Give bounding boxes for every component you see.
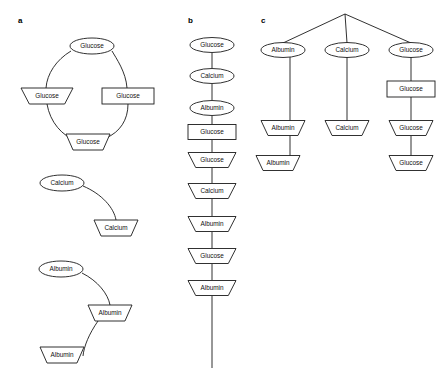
node-a3-glucose[interactable]: Glucose — [102, 88, 154, 104]
node-label: Glucose — [399, 124, 423, 131]
node-a2-glucose[interactable]: Glucose — [21, 88, 73, 104]
node-t9-glucose[interactable]: Glucose — [389, 156, 433, 171]
node-label: Albumin — [271, 124, 295, 131]
node-c3-albumin[interactable]: Albumin — [40, 347, 84, 363]
node-v8-glucose[interactable]: Glucose — [188, 249, 236, 264]
node-label: Albumin — [50, 351, 74, 358]
diagram-canvas: aGlucoseGlucoseGlucoseGlucoseCalciumCalc… — [0, 0, 446, 382]
node-label: Albumin — [200, 220, 224, 227]
node-v6-calcium[interactable]: Calcium — [188, 184, 236, 199]
panel-label-b: b — [188, 16, 193, 25]
node-b1-calcium[interactable]: Calcium — [40, 175, 84, 191]
node-t7-glucose[interactable]: Glucose — [389, 121, 433, 136]
node-label: Glucose — [399, 159, 423, 166]
node-t8-albumin[interactable]: Albumin — [256, 156, 300, 171]
node-t3-glucose[interactable]: Glucose — [389, 43, 433, 58]
node-v3-albumin[interactable]: Albumin — [190, 101, 234, 116]
panel-label-c: c — [261, 16, 266, 25]
node-label: Glucose — [200, 128, 224, 135]
node-label: Glucose — [200, 156, 224, 163]
node-label: Calcium — [335, 124, 358, 131]
node-label: Albumin — [271, 46, 295, 53]
node-label: Glucose — [200, 41, 224, 48]
node-b2-calcium[interactable]: Calcium — [94, 220, 138, 236]
node-label: Albumin — [49, 265, 73, 272]
node-label: Albumin — [266, 159, 290, 166]
group-albumin-chain: AlbuminAlbuminAlbumin — [39, 261, 132, 363]
node-label: Calcium — [200, 72, 223, 79]
node-v7-albumin[interactable]: Albumin — [188, 217, 236, 232]
node-v4-glucose[interactable]: Glucose — [188, 125, 236, 140]
group-vertical-chain: GlucoseCalciumAlbuminGlucoseGlucoseCalci… — [188, 38, 236, 369]
node-t1-albumin[interactable]: Albumin — [261, 43, 305, 58]
node-label: Albumin — [200, 104, 224, 111]
edge-c1-to-c2 — [82, 273, 110, 305]
node-label: Calcium — [335, 46, 358, 53]
edge-root-to-t2 — [345, 14, 347, 43]
node-label: Glucose — [76, 138, 100, 145]
node-label: Glucose — [200, 252, 224, 259]
node-a4-glucose[interactable]: Glucose — [66, 134, 110, 150]
edge-a4-to-a3 — [106, 104, 128, 138]
node-a1-glucose[interactable]: Glucose — [70, 38, 114, 54]
node-c1-albumin[interactable]: Albumin — [39, 261, 83, 277]
node-label: Glucose — [35, 92, 59, 99]
edge-a1-to-a2 — [46, 51, 71, 88]
node-v5-glucose[interactable]: Glucose — [188, 153, 236, 168]
panel-c: cAlbuminCalciumGlucoseGlucoseAlbuminCalc… — [256, 14, 435, 171]
edge-root-to-t3 — [345, 14, 411, 43]
node-label: Glucose — [116, 92, 140, 99]
node-t5-albumin[interactable]: Albumin — [261, 121, 305, 136]
panel-a: aGlucoseGlucoseGlucoseGlucoseCalciumCalc… — [18, 16, 154, 363]
node-t6-calcium[interactable]: Calcium — [325, 121, 369, 136]
node-v2-calcium[interactable]: Calcium — [190, 69, 234, 84]
group-calcium-chain: CalciumCalcium — [40, 175, 138, 236]
edge-c2-to-c3 — [83, 321, 98, 356]
node-label: Glucose — [80, 42, 104, 49]
edge-root-to-t1 — [283, 14, 345, 43]
group-glucose-cycle: GlucoseGlucoseGlucoseGlucose — [21, 38, 154, 150]
node-label: Calcium — [104, 224, 127, 231]
edge-b1-to-b2 — [83, 186, 116, 220]
node-v1-glucose[interactable]: Glucose — [190, 38, 234, 53]
node-label: Calcium — [50, 179, 73, 186]
panel-label-a: a — [18, 16, 23, 25]
figure-container: aGlucoseGlucoseGlucoseGlucoseCalciumCalc… — [0, 0, 446, 382]
node-v9-albumin[interactable]: Albumin — [188, 281, 236, 296]
node-label: Albumin — [98, 309, 122, 316]
group-branching-tree: AlbuminCalciumGlucoseGlucoseAlbuminCalci… — [256, 14, 435, 171]
panel-b: bGlucoseCalciumAlbuminGlucoseGlucoseCalc… — [188, 16, 236, 368]
node-t2-calcium[interactable]: Calcium — [325, 43, 369, 58]
node-label: Albumin — [200, 284, 224, 291]
node-label: Calcium — [200, 187, 223, 194]
node-label: Glucose — [399, 85, 423, 92]
node-c2-albumin[interactable]: Albumin — [88, 305, 132, 321]
node-t4-glucose[interactable]: Glucose — [387, 81, 435, 97]
edge-a3-to-a1 — [112, 51, 127, 88]
node-label: Glucose — [399, 46, 423, 53]
